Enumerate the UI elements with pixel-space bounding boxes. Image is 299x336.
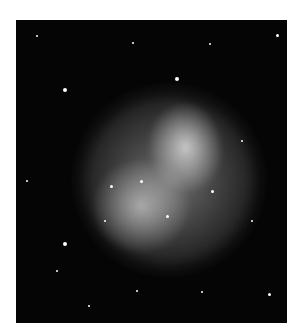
star xyxy=(63,242,67,246)
star xyxy=(276,34,279,37)
star xyxy=(88,305,90,307)
star xyxy=(140,180,143,183)
star xyxy=(209,43,211,45)
star xyxy=(268,293,271,296)
star xyxy=(26,180,28,182)
star xyxy=(132,42,134,44)
nebula-body xyxy=(66,80,271,282)
star xyxy=(251,220,253,222)
star xyxy=(211,190,214,193)
star xyxy=(104,220,106,222)
star xyxy=(110,185,113,188)
star xyxy=(166,215,169,218)
star xyxy=(201,291,203,293)
star xyxy=(56,270,58,272)
star xyxy=(63,88,67,92)
star xyxy=(136,290,138,292)
star xyxy=(175,77,179,81)
star xyxy=(36,35,38,37)
star xyxy=(241,140,243,142)
nebula-photo xyxy=(16,20,287,323)
